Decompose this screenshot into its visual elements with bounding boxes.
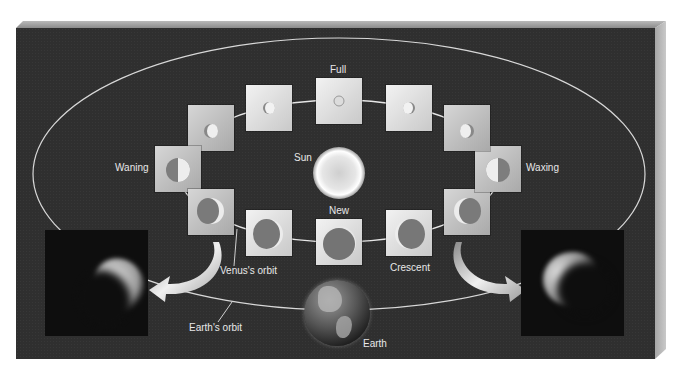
label-new: New bbox=[329, 205, 349, 216]
phase-waxing-half-square bbox=[475, 146, 521, 192]
label-waxing: Waxing bbox=[526, 162, 559, 173]
earth-globe-icon bbox=[304, 280, 370, 346]
phase-gibbous-left-1-square bbox=[246, 85, 292, 131]
arrow-left-icon bbox=[149, 242, 222, 302]
venus-orbit-leader bbox=[234, 229, 237, 266]
phase-crescent-right-square bbox=[444, 189, 490, 235]
label-earth: Earth bbox=[363, 338, 387, 349]
label-earth-orbit: Earth's orbit bbox=[189, 322, 242, 333]
phase-gibbous-right-2-square bbox=[444, 105, 490, 151]
venus-phases-diagram: Full Sun New Waning Waxing Crescent Venu… bbox=[0, 0, 680, 371]
phase-waning-half-square bbox=[155, 146, 201, 192]
phase-gibbous-left-2-square bbox=[188, 105, 234, 151]
phase-new-square bbox=[316, 219, 362, 265]
label-crescent: Crescent bbox=[390, 262, 430, 273]
label-venus-orbit: Venus's orbit bbox=[220, 265, 277, 276]
label-sun: Sun bbox=[294, 152, 312, 163]
label-full: Full bbox=[330, 64, 346, 75]
venus-crescent-right-glyph bbox=[543, 252, 603, 307]
south-america-shape bbox=[336, 316, 352, 338]
phase-full-square bbox=[316, 78, 362, 124]
north-america-shape bbox=[318, 286, 342, 312]
phase-crescent-left-2-square bbox=[246, 210, 292, 256]
phase-gibbous-right-1-square bbox=[386, 85, 432, 131]
venus-crescent-left-glyph bbox=[85, 251, 148, 323]
earth-orbit-leader bbox=[218, 302, 232, 322]
venus-crescent-photo-right bbox=[521, 230, 624, 336]
venus-crescent-photo-left bbox=[45, 230, 148, 336]
phase-crescent-left-square bbox=[188, 189, 234, 235]
sun-icon bbox=[313, 147, 365, 199]
label-waning: Waning bbox=[115, 162, 149, 173]
phase-crescent-square bbox=[386, 210, 432, 256]
